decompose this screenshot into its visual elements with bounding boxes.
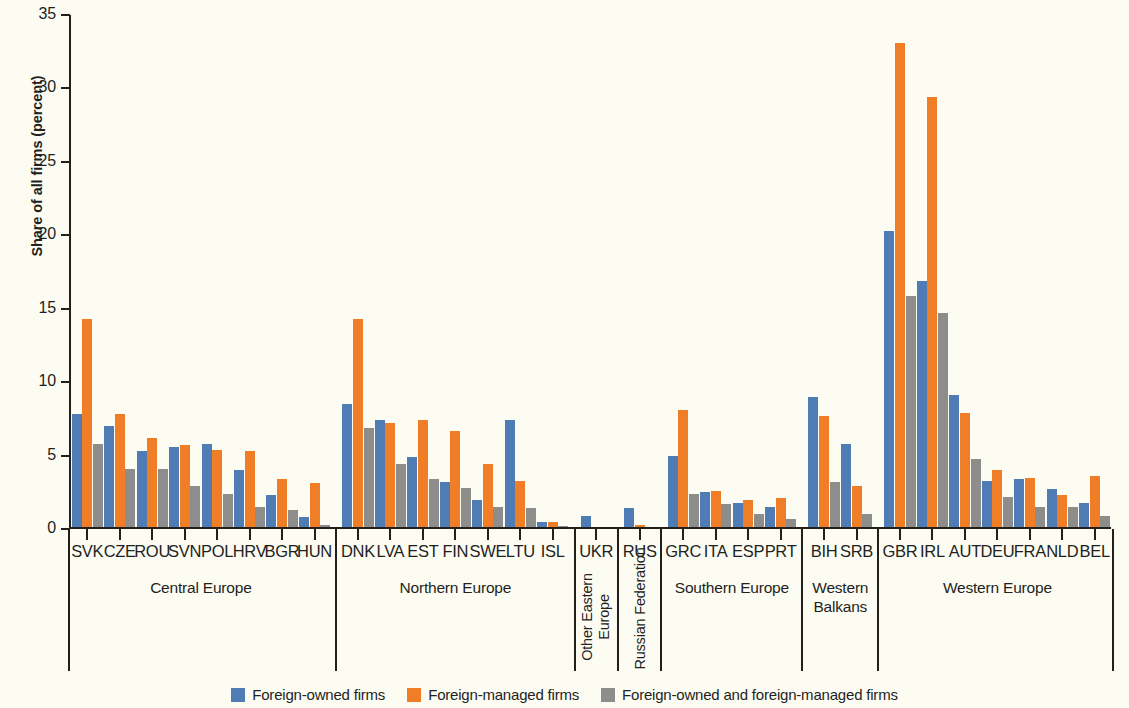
y-axis-tick bbox=[61, 87, 70, 89]
y-axis-tick-label: 0 bbox=[0, 520, 56, 536]
bar bbox=[212, 450, 222, 529]
legend-label: Foreign-owned and foreign-managed firms bbox=[622, 686, 898, 703]
bar bbox=[1003, 497, 1013, 529]
bar bbox=[721, 504, 731, 529]
bar bbox=[245, 451, 255, 529]
plot-area bbox=[71, 15, 1111, 529]
bar bbox=[407, 457, 417, 529]
bar bbox=[1090, 476, 1100, 529]
bar bbox=[342, 404, 352, 529]
bar bbox=[515, 481, 525, 529]
group-label: Other Eastern Europe bbox=[579, 552, 613, 682]
y-axis-tick-label: 20 bbox=[0, 226, 56, 242]
bar bbox=[147, 438, 157, 529]
bar bbox=[137, 451, 147, 529]
bar bbox=[396, 464, 406, 529]
x-axis-tick bbox=[747, 529, 749, 540]
bar bbox=[668, 456, 678, 529]
x-axis-category-label: PRT bbox=[758, 542, 802, 560]
x-axis-tick bbox=[184, 529, 186, 540]
x-axis-tick bbox=[899, 529, 901, 540]
bar bbox=[906, 296, 916, 530]
x-axis-tick bbox=[1094, 529, 1096, 540]
bar bbox=[1035, 507, 1045, 529]
bar bbox=[927, 97, 937, 529]
x-axis-tick bbox=[216, 529, 218, 540]
x-axis-tick bbox=[931, 529, 933, 540]
bar bbox=[1025, 478, 1035, 529]
x-axis-tick bbox=[519, 529, 521, 540]
group-separator bbox=[335, 529, 337, 671]
x-axis-tick bbox=[454, 529, 456, 540]
bar bbox=[982, 481, 992, 529]
chart-root: Share of all firms (percent) 05101520253… bbox=[0, 0, 1129, 708]
bar bbox=[776, 498, 786, 529]
bar bbox=[385, 423, 395, 529]
group-label: Russian Federation bbox=[631, 544, 648, 674]
bar bbox=[505, 420, 515, 529]
legend-label: Foreign-owned firms bbox=[252, 686, 385, 703]
y-axis-tick bbox=[61, 14, 70, 16]
bar bbox=[180, 445, 190, 529]
x-axis-tick bbox=[823, 529, 825, 540]
bar bbox=[202, 444, 212, 529]
bar bbox=[689, 494, 699, 529]
x-axis-tick bbox=[996, 529, 998, 540]
bar bbox=[895, 43, 905, 529]
x-axis-tick bbox=[357, 529, 359, 540]
bar bbox=[1079, 503, 1089, 529]
bar bbox=[483, 464, 493, 529]
bar bbox=[624, 508, 634, 529]
x-axis-tick bbox=[86, 529, 88, 540]
group-label: Northern Europe bbox=[342, 578, 569, 597]
bar bbox=[234, 470, 244, 529]
y-axis-tick bbox=[61, 308, 70, 310]
y-axis-tick bbox=[61, 161, 70, 163]
bar bbox=[971, 459, 981, 529]
bar bbox=[375, 420, 385, 529]
bar bbox=[169, 447, 179, 529]
x-axis-tick bbox=[119, 529, 121, 540]
bar bbox=[277, 479, 287, 529]
bar bbox=[310, 483, 320, 529]
bar bbox=[711, 491, 721, 529]
bar bbox=[353, 319, 363, 529]
bar bbox=[1057, 495, 1067, 529]
x-axis-tick bbox=[639, 529, 641, 540]
group-separator bbox=[574, 529, 576, 671]
legend-item: Foreign-owned and foreign-managed firms bbox=[601, 686, 898, 703]
bar bbox=[125, 469, 135, 529]
y-axis-tick-label: 10 bbox=[0, 373, 56, 389]
y-axis-tick-label: 25 bbox=[0, 153, 56, 169]
y-axis-tick-label: 30 bbox=[0, 79, 56, 95]
bar bbox=[841, 444, 851, 529]
bar bbox=[418, 420, 428, 529]
legend-label: Foreign-managed firms bbox=[428, 686, 579, 703]
bar bbox=[819, 416, 829, 529]
legend-item: Foreign-owned firms bbox=[231, 686, 385, 703]
y-axis-tick-label: 5 bbox=[0, 447, 56, 463]
x-axis-category-label: ISL bbox=[531, 542, 575, 560]
x-axis-tick bbox=[281, 529, 283, 540]
x-axis-tick bbox=[1061, 529, 1063, 540]
bar bbox=[255, 507, 265, 529]
bar bbox=[526, 508, 536, 529]
bar bbox=[678, 410, 688, 529]
bar bbox=[115, 414, 125, 529]
bar bbox=[808, 397, 818, 529]
bar bbox=[743, 500, 753, 529]
legend-swatch-icon bbox=[231, 688, 245, 702]
legend-swatch-icon bbox=[407, 688, 421, 702]
group-label: Western Balkans bbox=[800, 578, 880, 616]
bar bbox=[72, 414, 82, 529]
x-axis-tick bbox=[314, 529, 316, 540]
group-label: Central Europe bbox=[71, 578, 331, 597]
y-axis-tick-label: 35 bbox=[0, 6, 56, 22]
group-label: Western Europe bbox=[884, 578, 1111, 597]
legend-swatch-icon bbox=[601, 688, 615, 702]
x-axis-tick bbox=[389, 529, 391, 540]
group-separator bbox=[660, 529, 662, 671]
bar bbox=[429, 479, 439, 529]
bar bbox=[472, 500, 482, 529]
group-separator bbox=[68, 529, 70, 671]
